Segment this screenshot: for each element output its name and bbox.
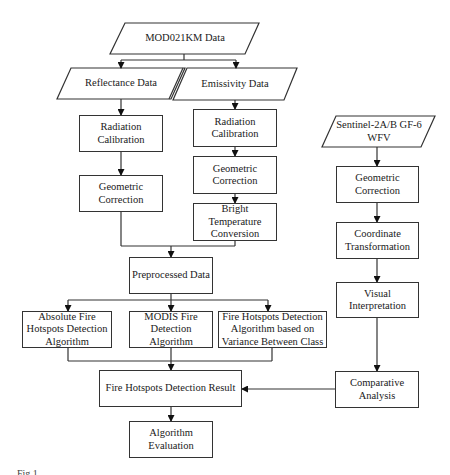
node-label: Preprocessed Data bbox=[132, 269, 210, 282]
variance-algorithm-node: Fire Hotspots Detection Algorithm based … bbox=[218, 311, 327, 348]
node-label: Bright Temperature Conversion bbox=[196, 203, 274, 241]
node-label: Radiation Calibration bbox=[82, 121, 160, 146]
node-label: Sentinel-2A/B GF-6 WFV bbox=[330, 119, 428, 144]
geometric-correction-left-node: Geometric Correction bbox=[79, 175, 163, 212]
mod021km-data-node: MOD021KM Data bbox=[120, 23, 250, 54]
node-label: Algorithm Evaluation bbox=[132, 427, 210, 452]
node-label: Fire Hotspots Detection Result bbox=[106, 382, 236, 395]
reflectance-data-node: Reflectance Data bbox=[64, 68, 178, 99]
geometric-correction-sentinel-node: Geometric Correction bbox=[336, 166, 419, 203]
geometric-correction-right-node: Geometric Correction bbox=[193, 156, 277, 194]
comparative-analysis-node: Comparative Analysis bbox=[335, 371, 419, 408]
node-label: Absolute Fire Hotspots Detection Algorit… bbox=[25, 311, 109, 349]
radiation-calibration-right-node: Radiation Calibration bbox=[193, 109, 277, 147]
node-label: Fire Hotspots Detection Algorithm based … bbox=[221, 311, 324, 349]
bright-temperature-conversion-node: Bright Temperature Conversion bbox=[193, 203, 277, 241]
node-label: Geometric Correction bbox=[339, 172, 416, 197]
node-label: Reflectance Data bbox=[85, 77, 157, 90]
node-label: MOD021KM Data bbox=[145, 32, 225, 45]
node-label: Comparative Analysis bbox=[338, 377, 416, 402]
preprocessed-data-node: Preprocessed Data bbox=[129, 257, 213, 294]
node-label: Emissivity Data bbox=[201, 78, 268, 91]
emissivity-data-node: Emissivity Data bbox=[180, 68, 290, 100]
node-label: Visual Interpretation bbox=[339, 288, 416, 313]
figure-caption: Fig.1 bbox=[17, 468, 38, 475]
coordinate-transformation-node: Coordinate Transformation bbox=[336, 222, 419, 259]
node-label: MODIS Fire Detection Algorithm bbox=[132, 311, 210, 349]
fire-hotspots-result-node: Fire Hotspots Detection Result bbox=[99, 370, 242, 407]
visual-interpretation-node: Visual Interpretation bbox=[336, 282, 419, 318]
sentinel-data-node: Sentinel-2A/B GF-6 WFV bbox=[330, 116, 428, 147]
node-label: Geometric Correction bbox=[196, 163, 274, 188]
node-label: Geometric Correction bbox=[82, 181, 160, 206]
absolute-fire-algorithm-node: Absolute Fire Hotspots Detection Algorit… bbox=[22, 311, 112, 348]
node-label: Coordinate Transformation bbox=[339, 228, 416, 253]
modis-fire-algorithm-node: MODIS Fire Detection Algorithm bbox=[129, 311, 213, 348]
algorithm-evaluation-node: Algorithm Evaluation bbox=[129, 421, 213, 458]
radiation-calibration-left-node: Radiation Calibration bbox=[79, 115, 163, 152]
node-label: Radiation Calibration bbox=[196, 116, 274, 141]
